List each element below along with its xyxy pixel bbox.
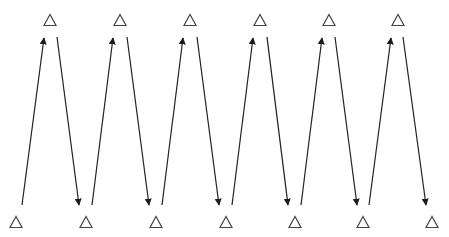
top-triangle-icon-6 bbox=[392, 15, 404, 26]
arrow-up-7 bbox=[232, 38, 253, 205]
top-triangle-icon-5 bbox=[323, 15, 335, 26]
arrow-up-11 bbox=[369, 38, 391, 205]
top-triangle-icon-3 bbox=[184, 15, 196, 26]
top-triangle-icon-2 bbox=[114, 15, 126, 26]
bottom-triangle-icon-2 bbox=[80, 217, 92, 228]
top-triangle-icon-4 bbox=[254, 15, 266, 26]
arrow-up-3 bbox=[92, 38, 113, 205]
bottom-triangle-icon-3 bbox=[150, 217, 162, 228]
arrow-down-6 bbox=[197, 37, 219, 205]
arrow-group bbox=[22, 37, 426, 205]
arrow-down-10 bbox=[335, 37, 357, 205]
arrow-down-12 bbox=[403, 37, 426, 205]
zigzag-diagram bbox=[0, 0, 449, 237]
arrow-up-9 bbox=[301, 38, 322, 205]
arrow-down-2 bbox=[57, 37, 79, 205]
arrow-up-5 bbox=[162, 38, 183, 205]
bottom-triangle-icon-5 bbox=[289, 217, 301, 228]
top-triangle-icon-1 bbox=[44, 15, 56, 26]
bottom-triangle-icon-1 bbox=[10, 217, 22, 228]
bottom-triangle-icon-6 bbox=[357, 217, 369, 228]
bottom-triangle-icon-7 bbox=[426, 217, 438, 228]
arrow-down-8 bbox=[267, 37, 288, 205]
arrow-up-1 bbox=[22, 38, 44, 205]
bottom-triangle-icon-4 bbox=[220, 217, 232, 228]
arrow-down-4 bbox=[127, 37, 149, 205]
triangle-group bbox=[10, 15, 438, 228]
